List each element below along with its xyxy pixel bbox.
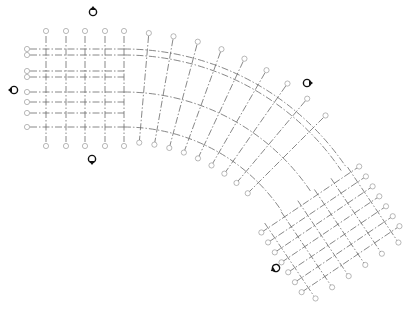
grid-bubble <box>242 56 247 61</box>
grid-bubble <box>121 143 126 148</box>
grid-bubble <box>43 28 48 33</box>
grid-bubble <box>279 260 284 265</box>
grid-bubble <box>313 296 318 301</box>
elevation-marker-west-icon[interactable] <box>8 86 18 93</box>
grid-bubble <box>102 28 107 33</box>
grid-bubble <box>24 124 29 129</box>
grid-line-rotated-a <box>281 196 379 262</box>
grid-bubble <box>24 74 29 79</box>
grid-bubble <box>363 262 368 267</box>
grid-bubble <box>24 46 29 51</box>
grid-bubble <box>24 68 29 73</box>
grid-bubble <box>390 214 395 219</box>
grid-arc <box>124 55 341 170</box>
grid-line-rotated-b <box>298 201 349 276</box>
grid-bubble <box>152 142 157 147</box>
grid-bubble <box>181 150 186 155</box>
grid-bubble <box>102 143 107 148</box>
grid-bubble <box>265 240 270 245</box>
grid-line-rotated-a <box>275 186 373 252</box>
grid-bubble <box>264 68 269 73</box>
grid-bubble <box>63 143 68 148</box>
elevation-marker-east-icon[interactable] <box>303 79 313 86</box>
curved-grid <box>124 30 346 210</box>
grid-line-radial <box>212 70 267 165</box>
grid-line-radial <box>248 115 326 193</box>
grid-line-radial <box>154 36 173 144</box>
grid-line-rotated-a <box>302 226 400 292</box>
grid-bubble <box>379 251 384 256</box>
grid-bubble <box>396 240 401 245</box>
grid-bubble <box>370 184 375 189</box>
grid-bubble <box>346 274 351 279</box>
grid-bubble <box>323 113 328 118</box>
elevation-marker-south-icon[interactable] <box>88 155 95 165</box>
grid-bubble <box>245 191 250 196</box>
grid-bubble <box>377 194 382 199</box>
elevation-marker-southwest-icon[interactable] <box>269 263 281 274</box>
grid-bubble <box>24 99 29 104</box>
grid-arc <box>124 127 282 211</box>
grid-bubble <box>292 280 297 285</box>
grid-line-rotated-b <box>281 212 332 287</box>
grid-bubble <box>167 145 172 150</box>
grid-bubble <box>222 171 227 176</box>
grid-bubble <box>305 96 310 101</box>
grid-bubble <box>82 143 87 148</box>
grid-arc <box>124 92 311 191</box>
grid-line-rotated-a <box>295 216 393 282</box>
grid-bubble <box>285 81 290 86</box>
rectangular-grid <box>24 28 126 148</box>
grid-line-rotated-b <box>331 178 382 253</box>
grid-line-radial <box>184 49 222 152</box>
grid-bubble <box>195 39 200 44</box>
rotated-grid <box>259 164 402 301</box>
grid-bubble <box>146 30 151 35</box>
grid-bubble <box>121 28 126 33</box>
grid-line-radial <box>198 59 244 159</box>
grid-bubble <box>219 47 224 52</box>
grid-bubble <box>299 290 304 295</box>
grid-line-rotated-b <box>265 223 316 298</box>
grid-bubble <box>63 28 68 33</box>
grid-bubble <box>24 52 29 57</box>
grid-bubble <box>363 174 368 179</box>
grid-bubble <box>383 204 388 209</box>
grid-bubble <box>234 180 239 185</box>
grid-plan-canvas <box>0 0 415 323</box>
grid-line-rotated-b <box>314 189 365 264</box>
grid-bubble <box>286 270 291 275</box>
grid-bubble <box>24 110 29 115</box>
grid-arc <box>124 49 346 167</box>
grid-line-rotated-a <box>261 166 359 232</box>
grid-line-rotated-b <box>348 167 399 242</box>
grid-line-rotated-a <box>288 206 386 272</box>
grid-bubble <box>195 156 200 161</box>
elevation-marker-north-icon[interactable] <box>89 6 96 16</box>
grid-bubble <box>24 89 29 94</box>
grid-bubble <box>137 140 142 145</box>
grid-line-rotated-a <box>268 176 366 242</box>
grid-bubble <box>209 163 214 168</box>
grid-bubble <box>330 285 335 290</box>
grid-bubble <box>397 224 402 229</box>
grid-line-radial <box>169 42 197 148</box>
grid-bubble <box>259 230 264 235</box>
grid-bubble <box>171 34 176 39</box>
grid-bubble <box>272 250 277 255</box>
elevation-markers <box>8 6 313 274</box>
grid-bubble <box>82 28 87 33</box>
grid-bubble <box>43 143 48 148</box>
grid-bubble <box>357 164 362 169</box>
